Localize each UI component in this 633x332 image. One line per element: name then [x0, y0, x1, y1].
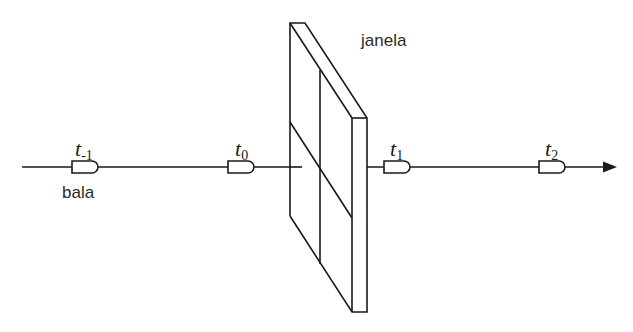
time-label-t0: t0 [235, 136, 248, 163]
time-label-t-1: t-1 [75, 136, 93, 163]
bullet-window-diagram: janela bala t-1 t0 t1 t2 [0, 0, 633, 332]
time-label-t2: t2 [545, 136, 558, 163]
bullet-label: bala [62, 183, 95, 202]
window-label: janela [360, 31, 407, 50]
time-label-t1: t1 [390, 136, 403, 163]
arrowhead-icon [603, 162, 617, 173]
